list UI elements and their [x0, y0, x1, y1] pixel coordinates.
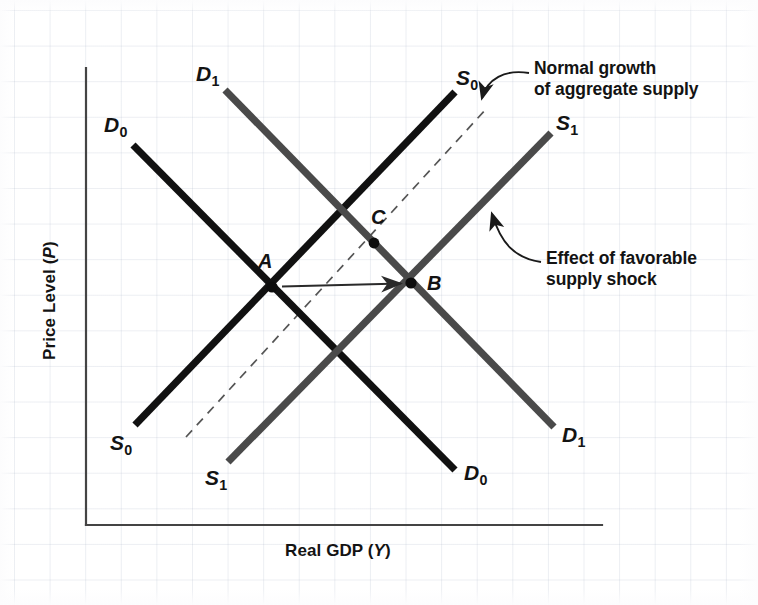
- chart-axes: [86, 68, 602, 525]
- y-axis-variable: P: [40, 247, 59, 258]
- annotation-supply-shock-line2: supply shock: [546, 269, 697, 290]
- x-axis-variable: Y: [374, 541, 385, 560]
- curve-label-d0-bottom: D0: [464, 461, 488, 489]
- annotation-normal-growth-line2: of aggregate supply: [534, 79, 698, 100]
- curve-d1: [225, 90, 554, 427]
- shift-arrow-a-to-b: [282, 284, 401, 287]
- point-dot-b: [405, 277, 416, 288]
- point-dot-a: [266, 281, 277, 292]
- curve-label-s1-bottom: S1: [205, 466, 227, 494]
- point-label-a: A: [258, 250, 272, 274]
- point-dot-c: [369, 238, 380, 249]
- curve-group: [133, 90, 554, 470]
- annotation-supply-shock-line1: Effect of favorable: [546, 248, 697, 269]
- curve-label-s0-top: S0: [456, 66, 478, 94]
- annotation-normal-growth-line1: Normal growth: [534, 58, 698, 79]
- normal-growth-dashed-line: [186, 108, 487, 437]
- curve-label-d1-top: D1: [196, 62, 220, 90]
- curve-s0: [135, 92, 455, 425]
- annotation-supply-shock: Effect of favorable supply shock: [546, 248, 697, 289]
- point-label-b: B: [427, 272, 441, 296]
- x-axis-title: Real GDP (Y): [285, 541, 391, 561]
- leader-arrow-normal-growth: [482, 72, 529, 98]
- curve-label-d1-bottom: D1: [562, 423, 586, 451]
- figure-aggregate-supply-shock: D0 D1 S0 S1 S0 S1 D1 D0 A B C Normal gro…: [0, 0, 758, 605]
- curve-label-s0-bottom: S0: [110, 431, 132, 459]
- point-label-c: C: [371, 206, 385, 230]
- leader-arrow-supply-shock: [492, 214, 541, 262]
- curve-s1: [228, 133, 551, 462]
- annotation-normal-growth: Normal growth of aggregate supply: [534, 58, 698, 99]
- y-axis-title: Price Level (P): [40, 241, 60, 360]
- curve-d0: [133, 145, 455, 470]
- curve-label-d0-top: D0: [104, 113, 128, 141]
- curve-label-s1-top: S1: [556, 111, 578, 139]
